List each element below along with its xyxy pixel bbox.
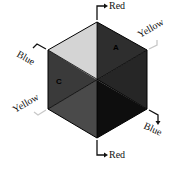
pointer-upper-right [149,40,157,49]
edge-label-lower-left: Yellow [11,91,42,115]
edge-label-bottom: Red [109,149,125,160]
edge-label-top: Red [109,0,125,11]
arrow-right-icon [104,4,108,9]
face-label-c: C [56,77,62,86]
hexagon-diagram: A C Red Yellow Blue Yellow Blue Red [0,0,175,175]
edge-label-upper-left: Blue [15,48,37,67]
pointer-top [97,4,108,21]
edge-label-lower-right: Blue [142,120,164,138]
pointer-bottom [97,140,108,158]
pointer-lower-left [34,110,46,115]
pointer-upper-left [33,44,46,49]
arrow-right-icon [104,153,108,158]
edge-label-upper-right: Yellow [136,16,167,40]
face-label-a: A [113,43,119,52]
